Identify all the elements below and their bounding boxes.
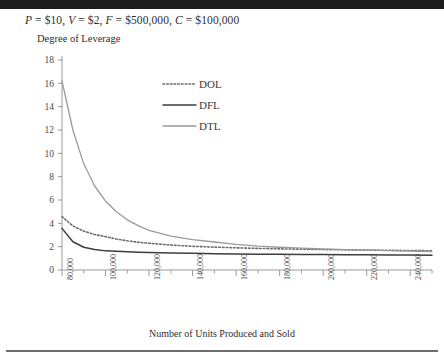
series-lines bbox=[62, 81, 432, 255]
x-axis-title: Number of Units Produced and Sold bbox=[0, 328, 444, 339]
y-tick-label: 12 bbox=[45, 125, 55, 135]
y-axis: 024681012141618 bbox=[45, 55, 63, 275]
y-tick-label: 6 bbox=[49, 195, 54, 205]
series-line-dtl bbox=[62, 81, 432, 252]
legend-label-dol: DOL bbox=[199, 78, 222, 90]
y-tick-label: 4 bbox=[49, 219, 54, 229]
fixed-cost-symbol: F bbox=[105, 14, 112, 26]
interest-symbol: C bbox=[175, 14, 183, 26]
figure-page: P = $10, V = $2, F = $500,000, C = $100,… bbox=[0, 0, 444, 358]
y-tick-label: 18 bbox=[45, 55, 55, 65]
y-tick-label: 2 bbox=[49, 242, 54, 252]
legend-label-dfl: DFL bbox=[199, 99, 220, 111]
y-tick-label: 10 bbox=[45, 149, 55, 159]
assumption-line: P = $10, V = $2, F = $500,000, C = $100,… bbox=[25, 14, 239, 26]
interest-value: = $100,000 bbox=[183, 14, 239, 26]
top-rule-divider bbox=[0, 0, 444, 9]
variable-cost-value: = $2, bbox=[75, 14, 105, 26]
plot-area: 024681012141618 DOLDFLDTL bbox=[0, 48, 444, 293]
chart-legend: DOLDFLDTL bbox=[163, 78, 222, 132]
price-value: = $10, bbox=[32, 14, 68, 26]
bottom-rule-divider bbox=[6, 350, 438, 352]
y-axis-title: Degree of Leverage bbox=[37, 33, 120, 44]
y-tick-label: 14 bbox=[45, 102, 55, 112]
y-tick-label: 0 bbox=[49, 265, 54, 275]
fixed-cost-value: = $500,000, bbox=[113, 14, 175, 26]
series-line-dfl bbox=[62, 228, 432, 255]
y-tick-label: 8 bbox=[49, 172, 54, 182]
y-tick-label: 16 bbox=[45, 79, 55, 89]
chart-svg: 024681012141618 DOLDFLDTL bbox=[0, 48, 444, 293]
legend-label-dtl: DTL bbox=[199, 120, 221, 132]
x-axis bbox=[62, 270, 432, 276]
